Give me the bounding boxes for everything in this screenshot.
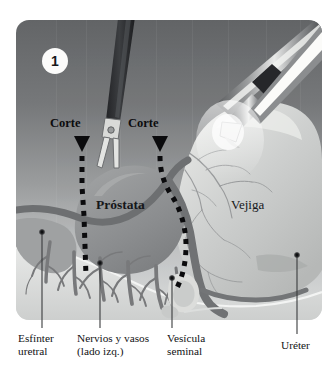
illustration-page: 1 Corte Corte Próstata Vejiga Esfínter u…: [0, 0, 335, 372]
scissors-pivot: [108, 127, 114, 133]
step-number-badge: 1: [42, 48, 68, 74]
caption-nerves-and-vessels: Nervios y vasos (lado izq.): [77, 332, 149, 357]
scissors-jaw-right: [113, 138, 119, 168]
cut-label-left: Corte: [50, 116, 81, 131]
bladder-label: Vejiga: [231, 197, 264, 213]
caption-seminal-vesicle: Vesícula seminal: [167, 332, 205, 357]
instrument-light-core: [212, 114, 244, 150]
prostate-label: Próstata: [96, 197, 145, 213]
caption-urethral-sphincter: Esfínter uretral: [18, 332, 54, 357]
surgical-illustration-frame: 1 Corte Corte Próstata Vejiga: [16, 20, 322, 320]
caption-ureter: Uréter: [281, 339, 310, 352]
cut-label-right: Corte: [128, 116, 159, 131]
